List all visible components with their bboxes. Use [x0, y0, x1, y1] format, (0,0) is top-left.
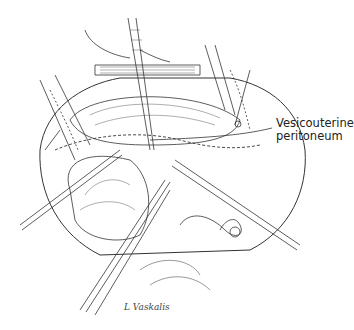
label-line-2: peritoneum [276, 130, 354, 143]
artist-signature: L Vaskalis [124, 302, 170, 312]
anatomy-label-vesicouterine-peritoneum: Vesicouterine peritoneum [276, 117, 354, 143]
